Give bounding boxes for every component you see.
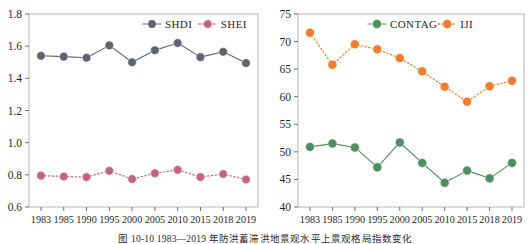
data-point-contag[interactable] [418,158,427,167]
data-point-contag[interactable] [328,139,337,148]
data-point-shei[interactable] [151,169,160,178]
data-point-contag[interactable] [508,158,517,167]
data-point-contag[interactable] [440,178,449,187]
data-point-shdi[interactable] [59,52,68,61]
data-point-shei[interactable] [37,171,46,180]
y-axis-tick-label: 0.6 [8,201,23,213]
data-point-contag[interactable] [395,138,404,147]
data-point-shdi[interactable] [82,53,91,62]
y-axis-tick-label: 60 [280,91,292,103]
x-axis-tick-label: 2000 [390,214,410,225]
legend-label-shdi: SHDI [165,18,192,30]
y-axis-tick-label: 0.8 [8,169,23,181]
y-axis-tick-label: 70 [280,36,292,48]
data-point-shdi[interactable] [128,58,137,67]
chart-panels: 0.60.81.01.21.41.61.81983198519901995200… [0,0,531,232]
x-axis-tick-label: 1990 [76,214,96,225]
y-axis-tick-label: 45 [280,173,292,185]
y-axis-tick-label: 65 [280,63,292,75]
x-axis-tick-label: 1983 [31,214,51,225]
x-axis-tick-label: 2019 [236,214,256,225]
data-point-shei[interactable] [196,173,205,182]
y-axis-tick-label: 75 [280,8,292,20]
legend-label-iji: IJI [460,18,473,30]
data-point-contag[interactable] [306,142,315,151]
data-point-iji[interactable] [463,97,472,106]
legend-marker-contag [373,20,382,29]
y-axis-tick-label: 40 [280,201,292,213]
data-point-shei[interactable] [242,175,251,184]
data-point-iji[interactable] [418,67,427,76]
y-axis-tick-label: 1.6 [8,40,23,52]
x-axis-tick-label: 2015 [457,214,477,225]
figure-container: 0.60.81.01.21.41.61.81983198519901995200… [0,0,531,244]
x-axis-tick-label: 2010 [434,214,454,225]
y-axis-tick-label: 1.2 [8,105,23,117]
legend-label-contag: CONTAG [390,18,437,30]
chart-panel-contag-iji: 4045505560657075198319851990199520002005… [265,0,531,232]
data-point-iji[interactable] [373,45,382,54]
x-axis-tick-label: 2005 [412,214,432,225]
x-axis-tick-label: 2018 [213,214,233,225]
x-axis-tick-label: 1983 [300,214,320,225]
y-axis-tick-label: 55 [280,118,292,130]
x-axis-tick-label: 2010 [167,214,187,225]
data-point-contag[interactable] [463,166,472,175]
legend-marker-iji [443,20,452,29]
y-axis-tick-label: 1.0 [8,137,23,149]
legend-label-shei: SHEI [221,18,247,30]
data-point-shei[interactable] [219,170,228,179]
data-point-shei[interactable] [105,167,114,176]
left-chart-svg: 0.60.81.01.21.41.61.81983198519901995200… [0,0,265,232]
y-axis-tick-label: 1.8 [8,8,23,20]
data-point-contag[interactable] [485,174,494,183]
x-axis-tick-label: 2019 [502,214,522,225]
data-point-shdi[interactable] [196,53,205,62]
data-point-contag[interactable] [373,163,382,172]
legend-marker-shdi [148,20,157,29]
data-point-shei[interactable] [59,172,68,181]
x-axis-tick-label: 1995 [367,214,387,225]
x-axis-tick-label: 1985 [322,214,342,225]
series-line-contag [310,142,512,182]
data-point-iji[interactable] [440,82,449,91]
legend-marker-shei [204,20,213,29]
data-point-iji[interactable] [306,28,315,37]
x-axis-tick-label: 1985 [54,214,74,225]
y-axis-tick-label: 1.4 [8,72,23,84]
series-line-shei [41,170,246,180]
right-chart-svg: 4045505560657075198319851990199520002005… [265,0,531,232]
data-point-iji[interactable] [485,82,494,91]
data-point-iji[interactable] [350,40,359,49]
x-axis-tick-label: 2005 [145,214,165,225]
chart-panel-shdi-shei: 0.60.81.01.21.41.61.81983198519901995200… [0,0,265,232]
data-point-shdi[interactable] [37,52,46,61]
figure-caption: 图 10-10 1983—2019 年防洪蓄滞洪地景观水平上景观格局指数变化 [0,231,531,244]
series-line-shdi [41,43,246,63]
data-point-iji[interactable] [395,54,404,63]
data-point-contag[interactable] [350,143,359,152]
series-line-iji [310,33,512,102]
x-axis-tick-label: 1990 [345,214,365,225]
x-axis-tick-label: 2000 [122,214,142,225]
data-point-iji[interactable] [328,60,337,69]
x-axis-tick-label: 2018 [479,214,499,225]
x-axis-tick-label: 1995 [99,214,119,225]
data-point-shdi[interactable] [105,41,114,50]
data-point-shei[interactable] [128,175,137,184]
data-point-shei[interactable] [173,166,182,175]
y-axis-tick-label: 50 [280,146,292,158]
data-point-shdi[interactable] [242,59,251,68]
data-point-iji[interactable] [508,76,517,85]
data-point-shei[interactable] [82,173,91,182]
x-axis-tick-label: 2015 [190,214,210,225]
data-point-shdi[interactable] [151,46,160,55]
data-point-shdi[interactable] [219,48,228,57]
data-point-shdi[interactable] [173,39,182,48]
